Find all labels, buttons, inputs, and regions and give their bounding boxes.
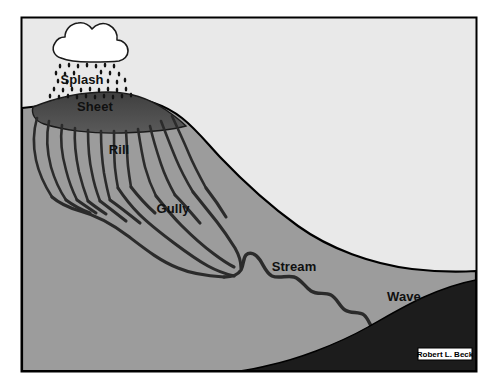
label-sheet: Sheet: [77, 99, 113, 114]
label-splash: Splash: [60, 72, 103, 87]
credit-badge: Robert L. Beck: [417, 348, 474, 360]
label-rill: Rill: [109, 142, 130, 157]
erosion-diagram-figure: Splash Sheet Rill Gully Stream Wave Robe…: [0, 0, 492, 391]
diagram-canvas: Splash Sheet Rill Gully Stream Wave Robe…: [0, 0, 492, 391]
credit-label: Robert L. Beck: [417, 350, 474, 359]
label-gully: Gully: [156, 201, 190, 216]
artwork-group: Splash Sheet Rill Gully Stream Wave Robe…: [22, 18, 476, 371]
label-stream: Stream: [272, 259, 317, 274]
label-wave: Wave: [387, 289, 421, 304]
